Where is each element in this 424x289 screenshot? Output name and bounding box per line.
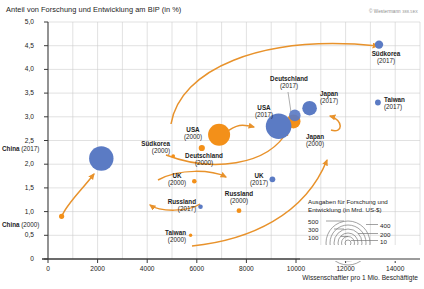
size-legend-label-500: 500 — [308, 218, 318, 225]
label-usa-2000: USA (2000) — [178, 126, 208, 141]
leader-deutschland-2017 — [288, 92, 291, 112]
size-legend-label-100: 100 — [308, 234, 318, 241]
bubble-uk-2017 — [270, 176, 276, 182]
leader-lines — [288, 92, 291, 112]
ytick-3-0: 3,0 — [8, 113, 34, 120]
label-deutschland-2017: Deutschland (2017) — [252, 75, 326, 90]
ytick-2-5: 2,5 — [8, 137, 34, 144]
size-legend-title: Ausgaben für Forschung und Entwicklung (… — [308, 198, 420, 213]
bubble-china-2017 — [89, 146, 113, 170]
size-legend-label-400: 400 — [380, 222, 390, 229]
size-legend-title-line2: Entwicklung (in Mrd. US-$) — [308, 206, 382, 213]
ytick-1-0: 1,0 — [8, 208, 34, 215]
x-axis-label: Wissenschaftler pro 1 Mio. Beschäftigte — [302, 274, 418, 281]
label-china-2017: China (2017) — [2, 145, 80, 152]
chart-root: Anteil von Forschung und Entwicklung am … — [0, 0, 424, 289]
bubble-china-2000 — [59, 214, 64, 219]
label-russland-2017: Russland (2017) — [150, 198, 196, 213]
bubble-taiwan-2000 — [189, 234, 192, 237]
label-japan-2000: Japan (2000) — [299, 133, 331, 148]
bubble-suedkorea-2017 — [375, 40, 383, 48]
bubble-taiwan-2017 — [375, 100, 381, 106]
ytick-5-0: 5,0 — [8, 18, 34, 25]
size-legend-label-300: 300 — [308, 226, 318, 233]
label-taiwan-2017: Taiwan (2017) — [384, 96, 424, 111]
label-china-2000: China (2000) — [2, 221, 39, 228]
label-suedkorea-2000: Südkorea (2000) — [118, 140, 170, 155]
xtick-0: 0 — [28, 265, 68, 272]
ytick-2-0: 2,0 — [8, 160, 34, 167]
ytick-3-5: 3,5 — [8, 89, 34, 96]
xtick-10000: 10000 — [276, 265, 316, 272]
size-legend-label-200: 200 — [380, 231, 390, 238]
size-legend-title-line1: Ausgaben für Forschung und — [308, 198, 388, 205]
label-uk-2000: UK (2000) — [165, 172, 189, 187]
arrow-japan — [330, 116, 340, 131]
label-deutschland-2000: Deutschland (2000) — [167, 152, 241, 167]
bubble-deutschland-2000 — [199, 145, 205, 151]
bubble-deutschland-2017 — [289, 110, 301, 122]
xtick-14000: 14000 — [375, 265, 415, 272]
label-usa-2017: USA (2017) — [249, 104, 279, 119]
ytick-0: 0 — [8, 255, 34, 262]
size-legend-label-10: 10 — [380, 238, 387, 245]
ytick-1-5: 1,5 — [8, 184, 34, 191]
xtick-4000: 4000 — [127, 265, 167, 272]
ytick-4-5: 4,5 — [8, 42, 34, 49]
bubble-russland-2017 — [198, 205, 203, 210]
series-2017-bubbles — [89, 40, 383, 209]
label-japan-2017: Japan (2017) — [313, 90, 345, 105]
arrow-china — [62, 174, 94, 216]
bubble-usa-2000 — [208, 124, 230, 146]
xtick-2000: 2000 — [78, 265, 118, 272]
label-uk-2017: UK (2017) — [249, 172, 269, 187]
label-taiwan-2000: Taiwan (2000) — [144, 229, 186, 244]
ytick-0-5: 0,5 — [8, 231, 34, 238]
label-suedkorea-2017: Südkorea (2017) — [360, 50, 412, 65]
bubble-russland-2000 — [237, 208, 242, 213]
ytick-4-0: 4,0 — [8, 65, 34, 72]
xtick-12000: 12000 — [326, 265, 366, 272]
xtick-8000: 8000 — [226, 265, 266, 272]
xtick-6000: 6000 — [177, 265, 217, 272]
bubble-uk-2000 — [192, 179, 197, 184]
label-russland-2000: Russland (2000) — [214, 190, 264, 205]
